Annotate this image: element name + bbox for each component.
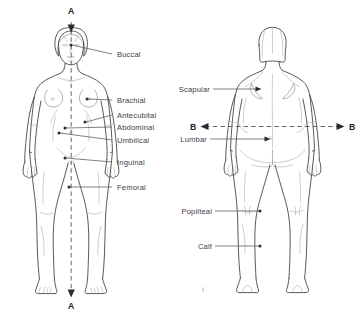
- anterior-right-arm-inner: [101, 101, 107, 160]
- posterior-left-popliteal-detail: [244, 206, 251, 215]
- anterior-left-arm-inner: [35, 101, 41, 160]
- posterior-hair-strand-right: [281, 32, 283, 56]
- anterior-inguinal-crease-right: [71, 148, 85, 158]
- posterior-hair-strand-left: [262, 32, 264, 56]
- anterior-left-thigh-detail: [43, 172, 44, 203]
- anterior-torso-outline: [30, 64, 65, 153]
- posterior-neck-right: [279, 62, 283, 71]
- posterior-left-heel: [243, 286, 253, 293]
- posterior-waist-left: [239, 124, 248, 133]
- point-antecubital: [84, 121, 87, 124]
- posterior-right-popliteal: [290, 210, 303, 212]
- point-umbilical: [58, 132, 61, 135]
- point-femoral: [68, 186, 71, 189]
- point-abdominal: [64, 127, 67, 130]
- posterior-right-heel: [293, 286, 303, 293]
- leader-scapular-arrowhead: [256, 87, 262, 92]
- leader-umbilical: [60, 133, 112, 140]
- anatomical-diagram: A A Buccal Brachial: [0, 0, 361, 315]
- posterior-left-scapula: [250, 84, 262, 99]
- point-buccal: [70, 44, 73, 47]
- posterior-right-hamstring: [300, 172, 301, 202]
- anterior-right-leg-inner: [74, 163, 89, 279]
- anterior-right-hand-fingers: [107, 168, 115, 177]
- section-axis-b-left-label: B: [190, 122, 196, 132]
- anterior-right-toes: [91, 287, 103, 294]
- label-femoral: Femoral: [117, 183, 146, 192]
- anterior-left-leg-inner: [53, 163, 68, 279]
- leader-buccal: [72, 45, 112, 54]
- point-calf: [259, 245, 262, 248]
- point-inguinal: [64, 157, 67, 160]
- posterior-right-hand-fingers: [309, 166, 317, 175]
- posterior-right-arm-inner: [303, 99, 309, 158]
- label-inguinal: Inguinal: [117, 158, 145, 167]
- label-lumbar: Lumbar: [180, 135, 207, 144]
- section-axis-a-bottom-label: A: [68, 301, 74, 311]
- posterior-left-hamstring: [244, 172, 245, 202]
- anterior-sternum-notch: [69, 81, 73, 82]
- anterior-right-foot: [85, 279, 106, 294]
- posterior-left-elbow: [230, 121, 238, 122]
- diagram-canvas: A A Buccal Brachial: [0, 0, 361, 315]
- anterior-left-calf-detail: [41, 226, 44, 255]
- label-scapular: Scapular: [179, 85, 210, 94]
- anterior-right-calf-detail: [98, 226, 101, 255]
- label-popliteal: Popliteal: [182, 207, 213, 216]
- posterior-lat-left: [243, 98, 246, 123]
- leader-inguinal: [66, 158, 112, 162]
- anterior-left-hand-fingers: [27, 168, 35, 177]
- section-axis-a-bottom-arrow: [68, 290, 75, 298]
- anterior-clavicle-right: [71, 78, 84, 81]
- section-axis-b-right-label: B: [349, 122, 355, 132]
- point-popliteal: [259, 210, 262, 213]
- posterior-left-hand-fingers: [228, 166, 236, 175]
- anterior-abdomen-contour-right: [87, 116, 90, 141]
- label-brachial: Brachial: [117, 96, 146, 105]
- anterior-ribcage-left: [51, 110, 58, 124]
- scan-artifact-mark: [203, 288, 204, 292]
- anterior-left-nipple: [51, 98, 54, 101]
- posterior-left-calf-muscle: [242, 224, 245, 253]
- label-calf: Calf: [198, 242, 213, 251]
- anterior-left-foot: [35, 279, 56, 294]
- posterior-right-scapula: [283, 84, 295, 99]
- posterior-gluteal-left: [240, 150, 272, 163]
- posterior-right-calf-muscle: [300, 224, 303, 253]
- posterior-neck-left: [263, 62, 267, 71]
- anterior-right-thigh-detail: [98, 172, 99, 203]
- anterior-left-knee: [40, 212, 53, 214]
- anterior-inguinal-crease-left: [57, 148, 71, 158]
- posterior-right-popliteal-detail: [295, 206, 302, 215]
- point-brachial: [86, 98, 89, 101]
- anterior-right-elbow-crease: [105, 124, 113, 125]
- posterior-left-leg-inner: [255, 165, 270, 278]
- section-axis-b-right-arrow: [337, 123, 345, 130]
- posterior-right-leg-inner: [275, 165, 290, 278]
- section-axis-a-top-label: A: [68, 6, 74, 16]
- posterior-left-arm-inner: [236, 99, 242, 158]
- posterior-gluteal-fold-left: [252, 165, 272, 167]
- anterior-hair-strand-1: [62, 33, 67, 42]
- posterior-figure: B B Scapular Lumbar Popliteal Calf: [179, 27, 355, 292]
- posterior-torso-right: [283, 71, 315, 152]
- label-buccal: Buccal: [117, 50, 141, 59]
- posterior-right-elbow: [308, 121, 316, 122]
- posterior-waist-right: [298, 124, 307, 133]
- posterior-gluteal-fold-right: [273, 165, 293, 167]
- anterior-left-eye: [63, 44, 68, 46]
- anterior-left-toes: [39, 287, 51, 294]
- posterior-lat-right: [299, 98, 302, 123]
- posterior-gluteal-right: [274, 150, 306, 163]
- anterior-figure: A A Buccal Brachial: [23, 6, 156, 312]
- label-antecubital: Antecubital: [117, 111, 156, 120]
- anterior-clavicle-left: [58, 78, 71, 81]
- label-abdominal: Abdominal: [117, 123, 154, 132]
- anterior-left-elbow-crease: [29, 124, 37, 125]
- label-umbilical: Umbilical: [117, 136, 149, 145]
- section-axis-b-left-arrow: [201, 123, 209, 130]
- anterior-abdomen-contour-left: [53, 116, 56, 141]
- anterior-right-knee: [89, 212, 102, 214]
